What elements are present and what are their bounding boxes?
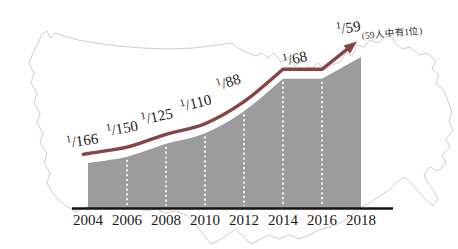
rate-label: 1/150: [105, 117, 139, 139]
year-label: 2008: [151, 212, 181, 228]
chart-canvas: 1/1661/1501/1251/1101/881/681/59 (59人中有1…: [0, 0, 458, 249]
year-label: 2010: [190, 212, 220, 228]
rate-label: 1/110: [178, 90, 213, 114]
year-label: 2006: [112, 212, 143, 228]
year-label: 2012: [229, 212, 259, 228]
year-label: 2004: [73, 212, 104, 228]
rate-label: 1/125: [139, 104, 174, 127]
rate-annotation: (59人中有1位): [361, 25, 422, 42]
rate-label: 1/68: [281, 47, 308, 69]
year-label: 2016: [307, 212, 338, 228]
year-label: 2018: [346, 212, 376, 228]
prevalence-area-chart: 1/1661/1501/1251/1101/881/681/59 (59人中有1…: [0, 0, 458, 249]
rate-label: 1/166: [65, 129, 99, 150]
rate-label: 1/88: [214, 70, 242, 94]
year-label: 2014: [268, 212, 299, 228]
rate-label: 1/59: [335, 17, 362, 37]
x-axis-labels: 2004 2006 2008 2010 2012 2014 2016 2018: [73, 212, 376, 228]
